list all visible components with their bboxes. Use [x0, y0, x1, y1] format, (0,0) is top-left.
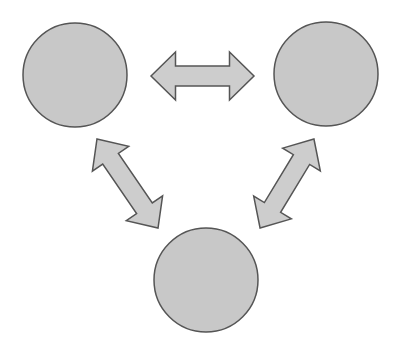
node-top-left: [23, 23, 127, 127]
double-arrow-left: [79, 127, 176, 241]
cycle-diagram: [0, 0, 400, 352]
node-bottom: [154, 228, 258, 332]
double-arrow-right: [241, 128, 333, 240]
double-arrow-top: [151, 52, 254, 100]
node-top-right: [274, 22, 378, 126]
